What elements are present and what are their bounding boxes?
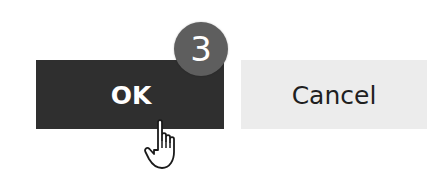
cancel-button-label: Cancel xyxy=(292,81,377,110)
dialog-button-row: OK Cancel 3 xyxy=(0,0,432,177)
step-number-badge: 3 xyxy=(174,22,228,76)
ok-button-label: OK xyxy=(111,81,152,110)
hand-pointer-icon xyxy=(144,118,186,172)
cancel-button[interactable]: Cancel xyxy=(241,60,427,129)
step-number: 3 xyxy=(190,29,212,69)
